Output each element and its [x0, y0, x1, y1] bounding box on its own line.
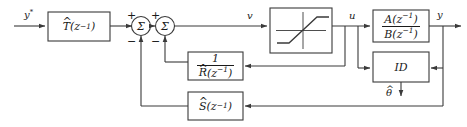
signal-label-reference: y* — [24, 9, 33, 20]
block-label-plant: A(z−1) B(z−1) — [373, 10, 429, 42]
block-label-r-feedback: 1 ^R(z−1) — [188, 52, 243, 80]
block-diagram: y* ^T(z−1) Σ + − Σ + − v u y A(z−1) B(z−… — [0, 0, 467, 127]
sum-symbol-1: Σ — [137, 21, 145, 32]
sum-symbol-2: Σ — [161, 21, 169, 32]
sum2-minus-sign: − — [151, 36, 160, 47]
signal-label-theta-hat: ^θ — [386, 88, 392, 98]
signal-label-u: u — [349, 11, 355, 21]
block-label-s-feedback: ^S(z−1) — [188, 92, 243, 120]
plant-numerator: A(z−1) — [382, 12, 420, 25]
block-label-tracking: ^T(z−1) — [48, 12, 110, 41]
sum2-plus-sign: + — [151, 10, 160, 21]
block-label-identifier: ID — [373, 52, 429, 82]
sum1-plus-sign: + — [127, 10, 136, 21]
signal-label-v: v — [247, 11, 253, 21]
sum1-minus-sign: − — [127, 36, 136, 47]
plant-denominator: B(z−1) — [382, 26, 420, 40]
r-denominator: ^R(z−1) — [197, 65, 235, 79]
signal-label-y: y — [437, 10, 443, 20]
